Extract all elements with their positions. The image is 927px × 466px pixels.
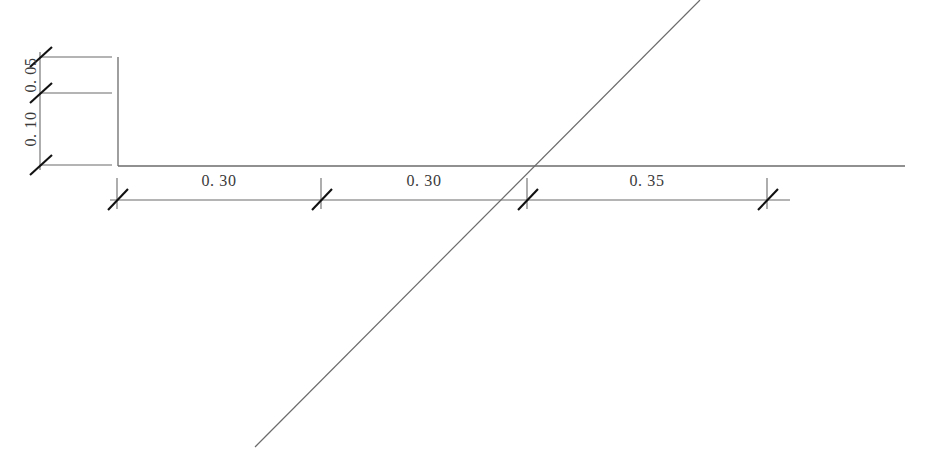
- diagonal-line: [255, 0, 700, 447]
- object-geometry: [118, 0, 905, 447]
- horizontal-dimension-label-3: 0. 35: [630, 172, 665, 189]
- horizontal-dimension-label-1: 0. 30: [202, 172, 237, 189]
- vertical-extension-lines: [40, 57, 112, 165]
- technical-drawing-canvas: 0. 05 0. 10 0. 30 0. 30 0. 35: [0, 0, 927, 466]
- horizontal-dimension-line: [108, 189, 790, 210]
- vertical-dimension-label-0-05: 0. 05: [22, 58, 39, 93]
- horizontal-dimension-labels: 0. 30 0. 30 0. 35: [202, 172, 665, 189]
- vertical-dimension-label-0-10: 0. 10: [22, 112, 39, 147]
- drawing-surface: 0. 05 0. 10 0. 30 0. 30 0. 35: [0, 0, 927, 466]
- horizontal-dimension-label-2: 0. 30: [407, 172, 442, 189]
